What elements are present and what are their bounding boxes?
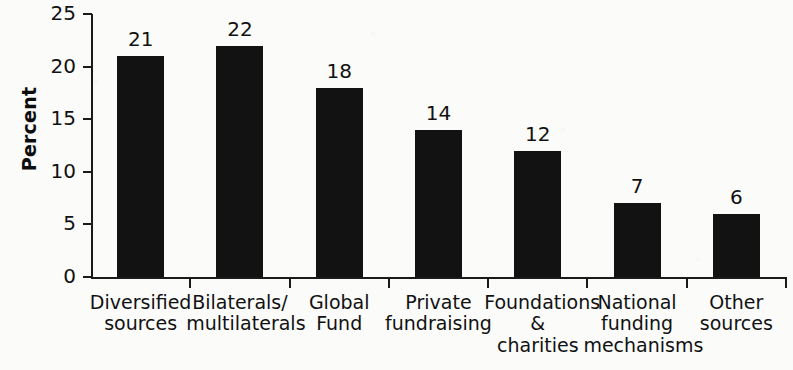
y-axis-tick-label: 25 [30,3,76,23]
bar-value-label: 6 [696,187,776,207]
y-axis-tick [83,66,92,68]
x-axis-category-label: Bilaterals/ multilaterals [186,292,293,335]
x-axis-line [91,277,786,279]
y-axis-tick-label: 20 [30,56,76,76]
plot-area: Percent 2520151050 21Diversified sources… [0,0,793,370]
y-axis-tick-label: 5 [30,213,76,233]
x-axis-tick [487,277,489,288]
bar [117,56,164,277]
x-axis-tick [785,277,787,288]
x-axis-category-label: Other sources [683,292,790,335]
y-axis-tick-label: 10 [30,161,76,181]
y-axis-tick-label: 0 [30,266,76,286]
bar [415,130,462,277]
bar-value-label: 21 [101,29,181,49]
y-axis-tick-label: 15 [30,108,76,128]
bar [216,46,263,277]
bar-value-label: 22 [200,19,280,39]
y-axis-tick [83,223,92,225]
x-axis-category-label: Private fundraising [385,292,492,335]
y-axis-line [91,14,93,279]
chart-figure: Percent 2520151050 21Diversified sources… [0,0,793,370]
bar [316,88,363,277]
x-axis-tick [289,277,291,288]
bar [614,203,661,277]
bar-value-label: 7 [597,176,677,196]
x-axis-category-label: Diversified sources [87,292,194,335]
y-axis-tick [83,118,92,120]
bar-value-label: 12 [498,124,578,144]
bar-value-label: 14 [399,103,479,123]
x-axis-tick [686,277,688,288]
x-axis-tick [388,277,390,288]
bar [713,214,760,277]
x-axis-tick [586,277,588,288]
y-axis-tick [83,13,92,15]
x-axis-category-label: Global Fund [286,292,393,335]
bar-value-label: 18 [299,61,379,81]
x-axis-category-label: Foundations & charities [484,292,591,356]
bar [514,151,561,277]
y-axis-tick [83,171,92,173]
x-axis-category-label: National funding mechanisms [583,292,690,356]
x-axis-tick [189,277,191,288]
y-axis-tick [83,276,92,278]
